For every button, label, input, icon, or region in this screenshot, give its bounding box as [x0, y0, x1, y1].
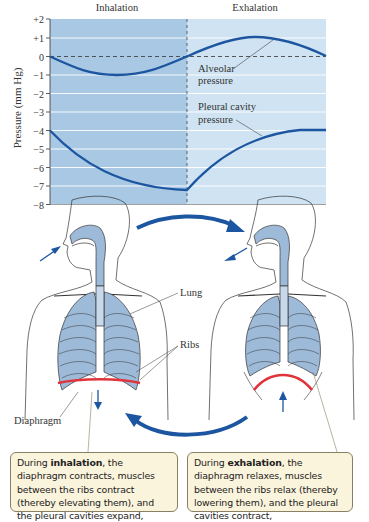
- phase-label-inhalation: Inhalation: [96, 2, 139, 13]
- exhalation-callout: During exhalation, the diaphragm relaxes…: [187, 452, 353, 512]
- label-pleural-2: pressure: [198, 114, 233, 125]
- diaphragm-down-arrow-icon: [94, 390, 102, 410]
- svg-text:−7: −7: [33, 181, 44, 192]
- diaphragm-up-arrow-icon: [279, 391, 287, 412]
- pressure-chart: Inhalation Exhalation +2: [11, 2, 326, 211]
- inhale-air-arrow-icon: [40, 246, 61, 261]
- label-pleural: Pleural cavity: [198, 101, 257, 112]
- svg-text:−6: −6: [33, 163, 44, 174]
- svg-text:−2: −2: [33, 89, 44, 100]
- label-ribs: Ribs: [180, 339, 199, 350]
- inhalation-callout: During inhalation, the diaphragm contrac…: [10, 452, 178, 512]
- label-lung: Lung: [180, 287, 203, 298]
- callout-keyword-inhalation: inhalation: [50, 457, 102, 468]
- svg-text:−1: −1: [33, 70, 44, 81]
- y-tick-labels: +2 +1 0 −1 −2 −3 −4 −5 −6 −7 −8: [33, 14, 44, 211]
- exhale-air-arrow-icon: [224, 248, 247, 261]
- inhalation-figure: [25, 196, 178, 452]
- svg-text:−4: −4: [33, 126, 44, 137]
- callout-keyword-exhalation: exhalation: [227, 457, 281, 468]
- svg-text:−5: −5: [33, 144, 44, 155]
- cycle-arrow-bottom-icon: [125, 413, 247, 435]
- phase-label-exhalation: Exhalation: [232, 2, 278, 13]
- svg-text:+1: +1: [33, 33, 44, 44]
- svg-text:−3: −3: [33, 107, 44, 118]
- label-alveolar: Alveolar: [198, 63, 235, 74]
- svg-text:0: 0: [39, 52, 44, 63]
- y-axis-label: Pressure (mm Hg): [11, 67, 24, 148]
- svg-text:−8: −8: [33, 200, 44, 211]
- label-diaphragm: Diaphragm: [14, 415, 61, 426]
- label-alveolar-2: pressure: [198, 75, 233, 86]
- svg-text:+2: +2: [33, 14, 44, 25]
- exhalation-figure: [209, 196, 354, 455]
- cycle-arrow-top-icon: [137, 216, 245, 232]
